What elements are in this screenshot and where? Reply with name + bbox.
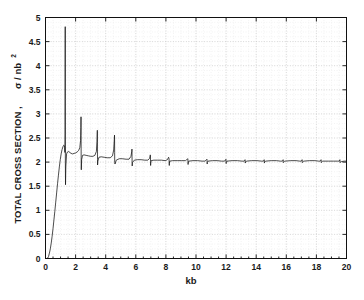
y-axis-title-symbol: σ / nb [12,63,23,89]
y-tick-label: 1 [36,205,41,215]
y-tick-label: 4 [36,61,41,71]
x-tick-label: 8 [164,262,169,272]
x-tick-label: 18 [312,262,322,272]
y-axis-title-main: TOTAL CROSS SECTION , [12,106,23,223]
y-tick-label: 5 [36,13,41,23]
figure-container: 02468101214161820 00.511.522.533.544.55 … [0,0,364,300]
figure-background [0,0,364,300]
y-axis-title-exponent: 2 [10,54,17,58]
x-tick-label: 16 [282,262,292,272]
y-tick-label: 2 [36,157,41,167]
y-tick-label: 4.5 [29,37,41,47]
x-tick-label: 12 [221,262,231,272]
x-tick-label: 20 [342,262,352,272]
x-tick-label: 14 [251,262,261,272]
x-axis-title: kb [185,275,196,286]
y-tick-label: 3 [36,109,41,119]
y-tick-label: 3.5 [29,85,41,95]
y-axis-title-group: TOTAL CROSS SECTION , σ / nb 2 [10,54,23,224]
x-tick-label: 6 [133,262,138,272]
y-tick-label: 0 [36,254,41,264]
x-tick-label: 0 [43,262,48,272]
cross-section-plot: 02468101214161820 00.511.522.533.544.55 … [0,0,364,300]
x-tick-label: 4 [103,262,108,272]
y-tick-label: 0.5 [29,229,41,239]
y-tick-label: 2.5 [29,133,41,143]
x-tick-label: 2 [73,262,78,272]
x-tick-label: 10 [191,262,201,272]
y-tick-label: 1.5 [29,181,41,191]
